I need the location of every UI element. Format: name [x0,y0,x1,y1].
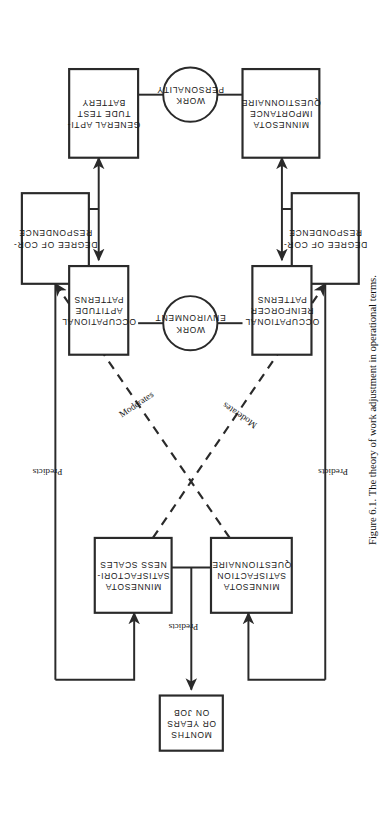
node-label-line: SATISFACTORI- [97,571,170,581]
edge-label-predicts-lower-group: Predicts [318,467,348,477]
node-label-line: RESPONDENCE [288,228,362,238]
node-general-aptitude-test-battery: GENERAL APTI- TUDE TEST BATTERY [67,69,140,158]
node-occupational-aptitude-patterns: OCCUPATIONAL APTITUDE PATTERNS [61,266,135,355]
node-label-line: NESS SCALES [100,560,167,570]
node-minnesota-importance-questionnaire: MINNESOTA IMPORTANCE QUESTIONNAIRE [241,69,321,158]
link-into-msq [248,613,325,680]
node-label-line: MINNESOTA [253,120,309,130]
node-work-personality: WORK PERSONALITY [157,68,224,122]
node-label-line: SATISFACTION [217,571,286,581]
node-label-line: MINNESOTA [105,582,161,592]
node-label-line: TUDE TEST [77,109,131,119]
node-work-environment: WORK ENVIRONMENT [155,296,226,350]
edge-label-moderates-a-group: Moderates [220,400,258,430]
edge-label-predicts-lower: Predicts [318,467,348,477]
node-label-line: GENERAL APTI- [67,120,140,130]
node-label-line: QUESTIONNAIRE [241,98,321,108]
node-label-line: APTITUDE [75,306,123,316]
node-label-line: ENVIRONMENT [155,313,226,323]
edge-label-predicts-upper: Predicts [32,467,62,477]
node-label-line: WORK [176,96,205,106]
node-label-line: ON JOB [173,708,209,718]
edge-label-predicts-upper-group: Predicts [32,467,62,477]
node-label-line: IMPORTANCE [249,109,312,119]
node-label-line: PERSONALITY [157,85,224,95]
node-minnesota-satisfactoriness-scales: MINNESOTA SATISFACTORI- NESS SCALES [95,538,172,613]
diagram-canvas: MONTHS OR YEARS ON JOB MINNESOTA SATISFA… [0,0,386,818]
node-label-line: REINFORCER [250,306,313,316]
node-occupational-reinforcer-patterns: OCCUPATIONAL REINFORCER PATTERNS [245,266,319,355]
edge-label-moderates-b-group: Moderates [117,389,155,419]
edge-label-predicts-center: Predicts [168,622,198,632]
figure-caption-group: Figure 6.1. The theory of work adjustmen… [367,275,378,545]
node-label-line: BATTERY [82,98,125,108]
node-label-line: PATTERNS [74,295,124,305]
figure-caption: Figure 6.1. The theory of work adjustmen… [367,275,378,545]
node-label-line: MONTHS [171,730,212,740]
node-label-line: MINNESOTA [223,582,279,592]
node-label-line: QUESTIONNAIRE [212,560,292,570]
edge-label-predicts-center-group: Predicts [168,622,198,632]
figure-work-adjustment: MONTHS OR YEARS ON JOB MINNESOTA SATISFA… [0,0,386,818]
edge-label-moderates-a: Moderates [220,400,258,430]
node-label-line: WORK [176,325,205,335]
node-months-or-years-on-job: MONTHS OR YEARS ON JOB [160,696,223,751]
link-into-mss [55,613,134,680]
node-label-line: OCCUPATIONAL [61,317,135,327]
node-minnesota-satisfaction-questionnaire: MINNESOTA SATISFACTION QUESTIONNAIRE [211,538,292,613]
node-label-line: OR YEARS [167,719,217,729]
node-label-line: PATTERNS [257,295,307,305]
node-label-line: OCCUPATIONAL [245,317,319,327]
node-label-line: DEGREE OF COR- [283,240,367,250]
edge-label-moderates-b: Moderates [117,389,155,419]
node-label-line: RESPONDENCE [19,228,93,238]
node-label-line: DEGREE OF COR- [13,240,97,250]
